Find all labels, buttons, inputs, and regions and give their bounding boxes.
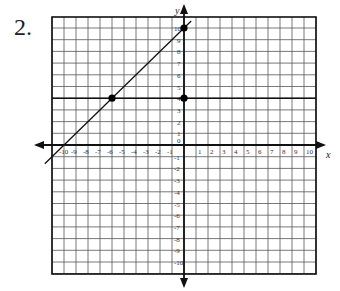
y-tick-label: 4 bbox=[177, 95, 181, 103]
plot-point bbox=[108, 95, 115, 102]
x-tick-label: 9 bbox=[294, 148, 298, 156]
x-tick-label: 4 bbox=[234, 148, 238, 156]
y-tick-label: -6 bbox=[174, 212, 180, 220]
coordinate-grid: -10-9-8-7-6-5-4-3-2-11234567891010987654… bbox=[0, 0, 340, 291]
x-tick-label: -1 bbox=[167, 148, 173, 156]
x-tick-label: 8 bbox=[282, 148, 286, 156]
y-tick-label: -2 bbox=[174, 165, 180, 173]
x-tick-label: 7 bbox=[270, 148, 274, 156]
y-tick-label: 8 bbox=[177, 48, 181, 56]
y-tick-label: 2 bbox=[177, 119, 181, 127]
x-tick-label: -8 bbox=[83, 148, 89, 156]
y-tick-label: 9 bbox=[177, 37, 181, 45]
y-tick-label: 0 bbox=[177, 137, 181, 145]
x-tick-label: -2 bbox=[155, 148, 161, 156]
tick-labels: -10-9-8-7-6-5-4-3-2-11234567891010987654… bbox=[59, 25, 314, 267]
x-tick-label: 5 bbox=[246, 148, 250, 156]
x-tick-label: -6 bbox=[107, 148, 113, 156]
x-tick-label: -7 bbox=[95, 148, 101, 156]
y-tick-label: 6 bbox=[177, 72, 181, 80]
y-axis-label: y bbox=[174, 5, 180, 16]
x-tick-label: -9 bbox=[71, 148, 77, 156]
y-tick-label: 7 bbox=[177, 60, 181, 68]
arrow-down-icon bbox=[180, 278, 188, 288]
x-tick-label: 2 bbox=[210, 148, 214, 156]
x-tick-label: 10 bbox=[306, 148, 314, 156]
arrow-left-icon bbox=[34, 141, 44, 149]
x-tick-label: 3 bbox=[222, 148, 226, 156]
x-tick-label: 1 bbox=[198, 148, 202, 156]
y-tick-label: 3 bbox=[177, 107, 181, 115]
y-tick-label: -7 bbox=[174, 224, 180, 232]
x-tick-label: 6 bbox=[258, 148, 262, 156]
y-tick-label: -4 bbox=[174, 189, 180, 197]
y-tick-label: -8 bbox=[174, 236, 180, 244]
y-tick-label: -9 bbox=[174, 247, 180, 255]
x-tick-label: -5 bbox=[119, 148, 125, 156]
arrow-up-icon bbox=[180, 4, 188, 14]
x-tick-label: -3 bbox=[143, 148, 149, 156]
x-axis-label: x bbox=[325, 149, 331, 160]
y-tick-label: -10 bbox=[174, 259, 184, 267]
axes bbox=[34, 4, 326, 288]
plot-point bbox=[180, 95, 187, 102]
y-tick-label: -5 bbox=[174, 201, 180, 209]
y-tick-label: 5 bbox=[177, 84, 181, 92]
y-tick-label: -3 bbox=[174, 177, 180, 185]
x-tick-label: -4 bbox=[131, 148, 137, 156]
arrow-right-icon bbox=[316, 141, 326, 149]
y-tick-label: -1 bbox=[174, 154, 180, 162]
line-diagonal bbox=[45, 21, 191, 164]
plot-point bbox=[180, 24, 187, 31]
